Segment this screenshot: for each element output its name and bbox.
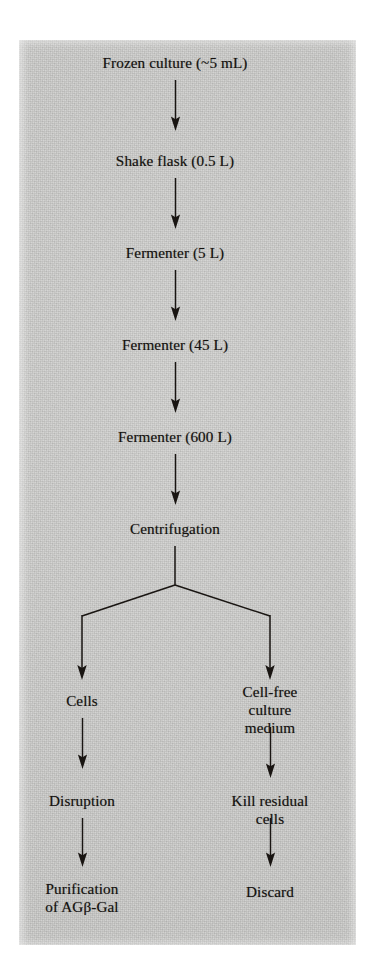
node-fermenter-45l: Fermenter (45 L) bbox=[122, 336, 228, 354]
arrow-frozen-to-shake bbox=[169, 80, 182, 132]
arrow-disruption-to-purification bbox=[76, 818, 89, 868]
branch-splitter-centrifugation bbox=[69, 546, 319, 692]
arrow-cells-to-disruption bbox=[76, 718, 89, 770]
node-fermenter-600l: Fermenter (600 L) bbox=[118, 428, 232, 446]
node-discard: Discard bbox=[246, 883, 294, 901]
node-fermenter-5l: Fermenter (5 L) bbox=[126, 244, 225, 262]
figure-panel: Frozen culture (~5 mL) Shake flask (0.5 … bbox=[19, 40, 356, 945]
node-kill-residual-cells: Kill residual cells bbox=[227, 792, 313, 827]
node-cells: Cells bbox=[66, 692, 98, 710]
arrow-fermenter5-to-fermenter45 bbox=[169, 270, 182, 322]
node-purification: Purification of AGβ-Gal bbox=[45, 880, 118, 916]
arrow-fermenter600-to-centrifugation bbox=[169, 454, 182, 506]
node-shake-flask: Shake flask (0.5 L) bbox=[116, 152, 234, 170]
node-frozen-culture: Frozen culture (~5 mL) bbox=[103, 54, 248, 72]
node-cell-free-medium: Cell-free culture medium bbox=[227, 683, 313, 737]
arrow-shake-to-fermenter5 bbox=[169, 178, 182, 230]
node-disruption: Disruption bbox=[49, 792, 115, 810]
node-centrifugation: Centrifugation bbox=[130, 520, 220, 538]
arrow-fermenter45-to-fermenter600 bbox=[169, 362, 182, 414]
